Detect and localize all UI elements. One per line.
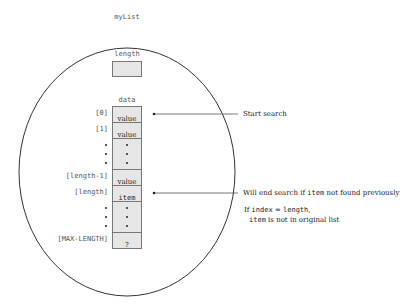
length-field-label: length: [112, 50, 142, 58]
array-cell: item: [112, 185, 142, 202]
cell-value: ?: [125, 241, 129, 249]
index-label: [MAX-LENGTH]: [57, 235, 108, 243]
ellipsis-dot: [126, 225, 128, 227]
ellipsis-dot: [126, 207, 128, 209]
array-cell: value: [112, 122, 142, 139]
array-cell: ?: [112, 232, 142, 249]
array-cell: value: [112, 169, 142, 186]
ellipsis-dot: [126, 144, 128, 146]
ellipsis-dot: [126, 216, 128, 218]
condition-note-line2: item is not in original list: [249, 216, 339, 224]
ellipsis-dot: [126, 153, 128, 155]
diagram-lines: [0, 0, 400, 304]
object-name-label: myList: [112, 13, 142, 21]
ellipsis-dot: [105, 153, 107, 155]
index-label: [0]: [95, 109, 108, 117]
ellipsis-dot: [105, 225, 107, 227]
end-search-note: Will end search if item not found previo…: [243, 189, 399, 197]
start-arrow-head: [153, 113, 156, 116]
data-field-label: data: [112, 96, 142, 104]
end-arrow-head: [153, 192, 156, 195]
condition-note-line1: If index = length,: [244, 206, 311, 214]
array-cell: value: [112, 106, 142, 123]
index-label: [length-1]: [66, 172, 108, 180]
length-field-box: [112, 61, 142, 77]
ellipsis-dot: [105, 207, 107, 209]
index-label: [length]: [74, 188, 108, 196]
index-label: [1]: [95, 125, 108, 133]
ellipsis-dot: [105, 162, 107, 164]
start-search-note: Start search: [243, 110, 287, 118]
ellipsis-dot: [105, 144, 107, 146]
ellipsis-dot: [126, 162, 128, 164]
ellipsis-dot: [105, 216, 107, 218]
